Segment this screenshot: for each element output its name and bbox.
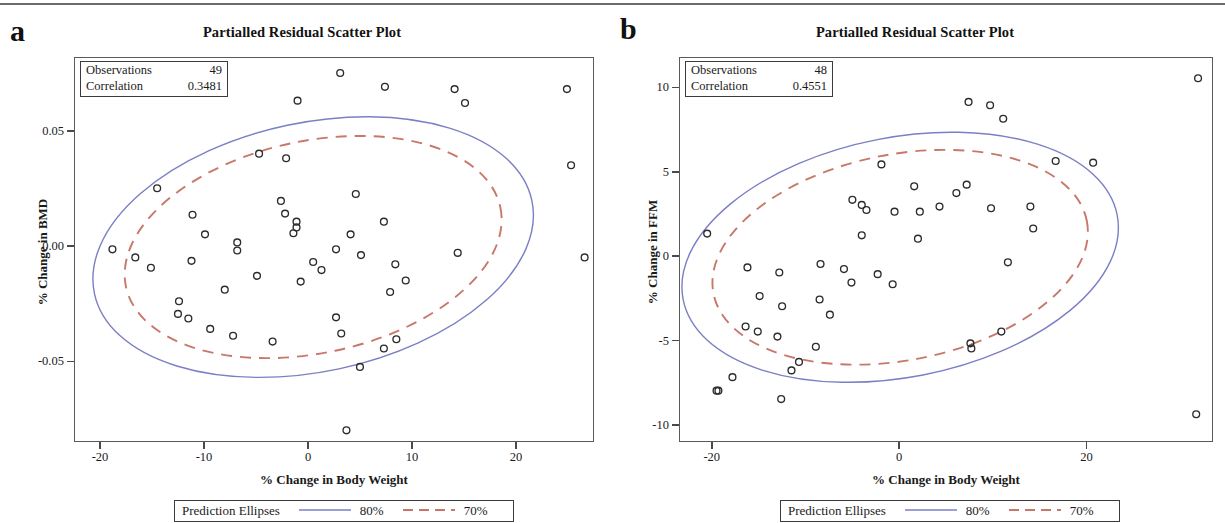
panel-a-legend-swatch-70 (402, 503, 456, 519)
scatter-point (858, 232, 865, 239)
panel-a-plot-area (74, 57, 594, 442)
scatter-point (454, 249, 461, 256)
scatter-point (294, 97, 301, 104)
panel-b-legend-title: Prediction Ellipses (788, 503, 886, 519)
panel-a-legend-label-70: 70% (464, 503, 488, 519)
scatter-point (1000, 115, 1007, 122)
prediction-ellipse-70 (104, 104, 522, 391)
y-tick-label: -0.05 (16, 354, 64, 369)
y-tick-mark (672, 255, 679, 257)
panel-a-correlation-value: 0.3481 (188, 79, 222, 95)
scatter-point (788, 367, 795, 374)
scatter-point (337, 70, 344, 77)
panel-b-stats-box: Observations 48 Correlation 0.4551 (685, 61, 833, 97)
scatter-point (878, 161, 885, 168)
panel-a-legend-label-80: 80% (360, 503, 384, 519)
panel-b-observations-row: Observations 48 (691, 63, 827, 79)
x-tick-label: -10 (196, 450, 213, 465)
scatter-point (333, 314, 340, 321)
scatter-point (338, 330, 345, 337)
figure-page: a Partialled Residual Scatter Plot Obser… (0, 0, 1225, 523)
scatter-point (953, 190, 960, 197)
panel-a-correlation-label: Correlation (86, 79, 153, 95)
scatter-point (393, 336, 400, 343)
panel-a-ellipse-legend: Prediction Ellipses 80% 70% (174, 500, 514, 522)
panel-b-legend-swatch-70 (1008, 503, 1062, 519)
scatter-point (774, 333, 781, 340)
scatter-point (568, 162, 575, 169)
panel-a-x-axis-title: % Change in Body Weight (74, 472, 594, 488)
y-tick-mark (672, 171, 679, 173)
y-tick-mark (672, 424, 679, 426)
scatter-point (581, 254, 588, 261)
scatter-point (1004, 259, 1011, 266)
scatter-point (382, 83, 389, 90)
scatter-point (358, 252, 365, 259)
x-tick-label: 0 (896, 450, 902, 465)
scatter-point (848, 279, 855, 286)
y-tick-mark (672, 340, 679, 342)
scatter-point (297, 278, 304, 285)
panel-b-legend-label-80: 80% (966, 503, 990, 519)
panel-a: a Partialled Residual Scatter Plot Obser… (0, 0, 612, 523)
panel-b-correlation-row: Correlation 0.4551 (691, 79, 827, 95)
x-tick-mark (307, 442, 309, 449)
prediction-ellipse-70 (694, 120, 1107, 395)
scatter-point (1052, 158, 1059, 165)
scatter-point (911, 183, 918, 190)
scatter-point (343, 427, 350, 434)
scatter-point (189, 211, 196, 218)
panel-a-legend-swatch-80 (298, 503, 352, 519)
x-tick-label: -20 (92, 450, 109, 465)
scatter-point (207, 325, 214, 332)
scatter-point (234, 247, 241, 254)
x-tick-mark (203, 442, 205, 449)
scatter-point (202, 231, 209, 238)
scatter-point (188, 257, 195, 264)
panel-a-title: Partialled Residual Scatter Plot (22, 24, 582, 41)
scatter-point (744, 264, 751, 271)
scatter-point (310, 259, 317, 266)
panel-b-ellipse-legend: Prediction Ellipses 80% 70% (780, 500, 1120, 522)
scatter-point (998, 328, 1005, 335)
scatter-point (915, 235, 922, 242)
scatter-point (796, 359, 803, 366)
scatter-point (849, 196, 856, 203)
y-tick-mark (672, 87, 679, 89)
scatter-point (1195, 75, 1202, 82)
y-tick-label: -5 (621, 333, 669, 348)
x-tick-mark (711, 442, 713, 449)
scatter-point (891, 208, 898, 215)
scatter-point (963, 181, 970, 188)
scatter-point (230, 332, 237, 339)
scatter-point (889, 281, 896, 288)
scatter-point (756, 293, 763, 300)
scatter-point (988, 205, 995, 212)
panel-b-observations-label: Observations (691, 63, 767, 79)
x-tick-label: 20 (1080, 450, 1093, 465)
panel-b-correlation-label: Correlation (691, 79, 758, 95)
y-tick-label: 0.00 (16, 239, 64, 254)
scatter-point (817, 261, 824, 268)
scatter-point (109, 246, 116, 253)
y-tick-mark (67, 130, 74, 132)
y-tick-label: 0 (621, 249, 669, 264)
scatter-point (776, 269, 783, 276)
panel-b-scatter-svg (680, 58, 1214, 443)
panel-a-stats-box: Observations 49 Correlation 0.3481 (80, 61, 228, 97)
panel-b-observations-value: 48 (815, 63, 828, 79)
panel-a-scatter-svg (75, 58, 595, 443)
y-tick-label: -10 (621, 418, 669, 433)
scatter-point (357, 364, 364, 371)
scatter-point (841, 266, 848, 273)
scatter-point (778, 396, 785, 403)
scatter-point (176, 298, 183, 305)
scatter-point (1027, 203, 1034, 210)
scatter-point (380, 345, 387, 352)
scatter-point (704, 230, 711, 237)
scatter-point (462, 100, 469, 107)
scatter-point (148, 264, 155, 271)
scatter-point (1090, 159, 1097, 166)
prediction-ellipse-80 (680, 97, 1140, 417)
scatter-point (987, 102, 994, 109)
